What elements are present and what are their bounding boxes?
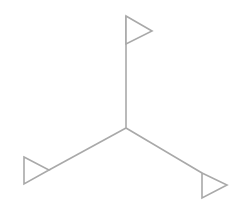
arm-bottom-left-line <box>49 128 126 170</box>
flag-bottom-left-icon <box>24 157 49 184</box>
flag-top-icon <box>126 16 152 44</box>
flag-bottom-right-icon <box>202 173 227 198</box>
arm-bottom-right-line <box>126 128 202 173</box>
junction-diagram <box>0 0 234 206</box>
